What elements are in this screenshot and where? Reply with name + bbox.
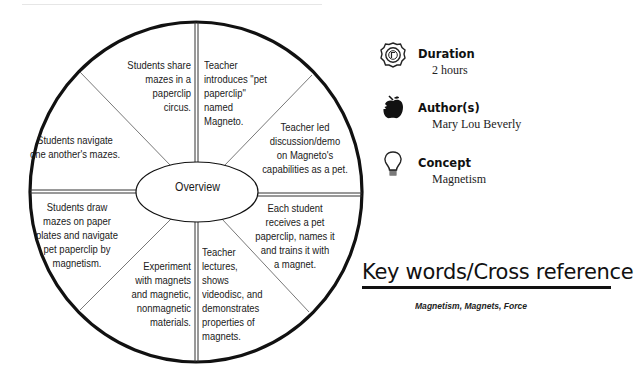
segment-bottom-right: Teacher lectures, shows videodisc, and d…: [202, 245, 271, 343]
duration-label: Duration: [418, 47, 475, 61]
keywords-heading: Key words/Cross reference: [362, 260, 633, 284]
keywords-list: Magnetism, Magnets, Force: [415, 300, 527, 311]
authors-value: Mary Lou Beverly: [432, 117, 521, 132]
segment-bottom-left: Experiment with magnets and magnetic, no…: [121, 259, 191, 329]
segment-upper-left: Students navigate one another's mazes.: [28, 133, 123, 161]
segment-top-right: Teacher introduces "pet paperclip" named…: [204, 58, 273, 128]
segment-top-left: Students share mazes in a paperclip circ…: [121, 58, 191, 114]
concept-value: Magnetism: [432, 172, 486, 187]
authors-label: Author(s): [418, 101, 480, 115]
keywords-underline: [362, 286, 611, 289]
lightbulb-icon: [380, 150, 406, 178]
clock-icon: [380, 41, 406, 69]
segment-lower-left: Students draw mazes on paper plates and …: [30, 200, 125, 270]
segment-upper-right: Teacher led discussion/demo on Magneto's…: [258, 120, 353, 176]
overview-label: Overview: [145, 180, 249, 194]
duration-value: 2 hours: [432, 63, 468, 78]
concept-label: Concept: [418, 156, 471, 170]
apple-icon: [380, 93, 406, 121]
